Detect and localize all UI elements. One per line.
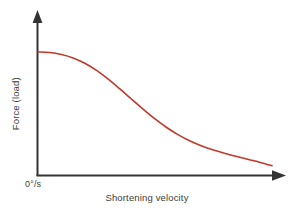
- force-velocity-chart: Force (load) Shortening velocity 0°/s: [0, 0, 294, 212]
- y-axis-label: Force (load): [8, 56, 22, 152]
- y-axis-arrowhead: [33, 10, 43, 23]
- y-axis-label-text: Force (load): [10, 77, 20, 130]
- chart-canvas: [0, 0, 294, 212]
- x-axis: [37, 170, 287, 180]
- y-axis: [33, 10, 43, 176]
- x-axis-arrowhead: [272, 170, 286, 180]
- force-velocity-curve: [38, 52, 272, 166]
- origin-tick-label: 0°/s: [25, 180, 41, 189]
- x-axis-label: Shortening velocity: [0, 193, 294, 203]
